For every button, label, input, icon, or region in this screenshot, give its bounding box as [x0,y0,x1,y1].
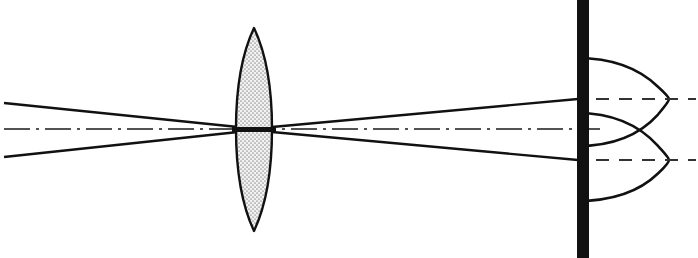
optical-ray-diagram-figure [0,0,698,258]
observation-screen [577,0,589,258]
optics-diagram-canvas [0,0,698,258]
